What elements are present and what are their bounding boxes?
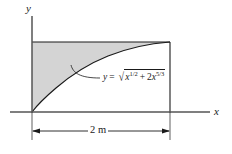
dimension-label: 2 m [88,125,108,136]
equation-equals: = [109,72,114,82]
term1-exponent: 1/2 [129,70,137,77]
curve-equation-annotation: y=√x1/2+2x5/3 [103,69,165,82]
dimension-arrow-left [32,129,40,134]
figure-container: y x 2 m y=√x1/2+2x5/3 [0,0,232,154]
y-axis-label: y [26,3,31,14]
equation-lhs: y [103,72,107,82]
equation-plus: + [140,72,145,82]
radicand: x1/2+2x5/3 [124,69,165,82]
dimension-arrow-right [162,129,170,134]
x-axis-label: x [214,106,219,117]
term2-exponent: 5/3 [156,70,164,77]
radical-sign: √ [118,71,123,83]
radical-group: √x1/2+2x5/3 [117,69,166,82]
